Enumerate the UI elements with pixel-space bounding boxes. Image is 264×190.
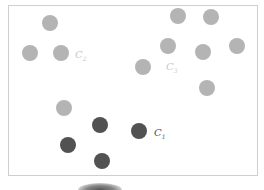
cluster-label-c2: C2 [75,50,86,64]
data-point-c3 [170,8,186,24]
data-point-c3 [160,38,176,54]
data-point-c2 [42,15,58,31]
data-point-c2 [56,100,72,116]
cluster-label-c1: C1 [154,128,165,142]
partial-shape-below [78,183,122,190]
data-point-c1 [94,153,110,169]
data-point-c1 [60,137,76,153]
data-point-c3 [135,59,151,75]
data-point-c1 [92,117,108,133]
data-point-c2 [53,45,69,61]
data-point-c3 [203,9,219,25]
data-point-c2 [22,45,38,61]
data-point-c1 [131,123,147,139]
data-point-c3 [199,80,215,96]
cluster-label-c3: C3 [166,62,177,76]
plot-frame [8,5,258,176]
data-point-c3 [195,44,211,60]
data-point-c3 [229,38,245,54]
